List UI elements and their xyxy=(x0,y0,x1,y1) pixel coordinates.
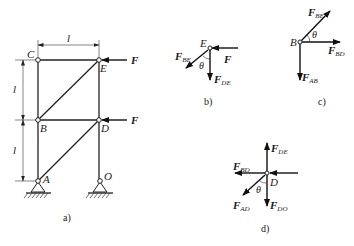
fbd-node-b: B θ FBE FBD FAB c) xyxy=(290,6,345,108)
force-label-fbd: FBD xyxy=(232,160,250,174)
node-o xyxy=(98,179,103,184)
member-be xyxy=(38,60,99,120)
force-label-fbe: FBE xyxy=(307,6,325,20)
angle-arc xyxy=(260,181,267,183)
caption-b: b) xyxy=(204,96,212,108)
label-e: E xyxy=(99,62,107,74)
label-b: B xyxy=(40,122,47,134)
force-label-fab: FAB xyxy=(301,71,319,85)
force-label-fde: FDE xyxy=(270,142,288,156)
label-c: C xyxy=(27,48,35,60)
angle-label: θ xyxy=(199,60,204,71)
caption-a: a) xyxy=(63,212,71,224)
force-label-fdo: FDO xyxy=(269,199,287,213)
fbd-node-e: E θ F FBE FDE b) xyxy=(174,37,238,108)
load-label-e: F xyxy=(130,54,139,66)
node-b xyxy=(298,40,302,44)
force-label-f: F xyxy=(223,53,232,65)
dimension-label-upper: l xyxy=(13,83,16,95)
caption-d: d) xyxy=(261,223,269,235)
dimension-label-lower: l xyxy=(13,144,16,156)
member-ad xyxy=(38,120,99,181)
load-label-d: F xyxy=(130,114,139,126)
angle-arc xyxy=(307,35,310,42)
truss-diagram: l l l C E B D A O xyxy=(0,0,354,246)
force-label-fbe: FBE xyxy=(174,50,192,64)
dimension-label-top: l xyxy=(67,32,70,44)
label-node: B xyxy=(290,36,297,48)
truss-structure: l l l C E B D A O xyxy=(13,32,139,224)
node-d xyxy=(265,171,269,175)
label-d: D xyxy=(100,122,109,134)
caption-c: c) xyxy=(318,96,326,108)
angle-label: θ xyxy=(256,184,261,195)
force-label-fde: FDE xyxy=(213,73,231,87)
node-a xyxy=(36,179,41,184)
angle-arc xyxy=(203,56,210,59)
pin-support-o xyxy=(86,182,113,198)
angle-label: θ xyxy=(312,29,317,40)
node-c xyxy=(36,58,41,63)
force-label-fad: FAD xyxy=(232,199,250,213)
node-e xyxy=(208,46,212,50)
force-arrow-fad xyxy=(243,175,265,195)
label-a: A xyxy=(42,173,50,185)
fbd-node-d: D θ FDE FBD FAD FDO d) xyxy=(232,142,298,235)
force-label-fbd: FBD xyxy=(327,44,345,58)
label-node: E xyxy=(199,37,207,49)
label-node: D xyxy=(269,176,278,188)
label-o: O xyxy=(104,170,112,182)
